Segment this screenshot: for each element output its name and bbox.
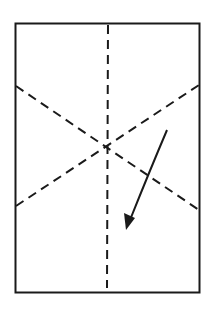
fold-line-vertical [107, 25, 108, 288]
fold-diagram [0, 0, 211, 312]
arrow-head-icon [124, 213, 135, 230]
fold-direction-arrow [130, 130, 167, 220]
